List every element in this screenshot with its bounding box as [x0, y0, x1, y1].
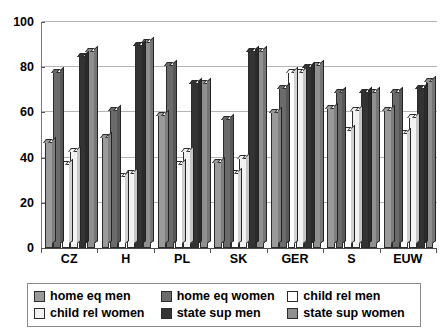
legend-swatch: [287, 291, 298, 302]
bar-side-face: [416, 112, 420, 244]
bar-side-face: [190, 146, 194, 244]
bar-side-face: [351, 125, 355, 244]
bar-side-face: [320, 60, 324, 244]
bar-side-face: [424, 82, 428, 244]
bar-side-face: [230, 114, 234, 244]
bar-top-face: [108, 107, 117, 111]
y-tick-label: 80: [4, 61, 34, 74]
bar: [271, 112, 279, 248]
bar-side-face: [77, 146, 81, 244]
x-tick-mark: [436, 248, 437, 253]
x-axis-labels: CZHPLSKGERSEUW: [41, 253, 436, 273]
bar: [45, 142, 53, 248]
x-tick-mark: [210, 248, 211, 253]
x-category-label: PL: [174, 253, 190, 266]
bar-top-face: [325, 105, 334, 109]
bar-side-face: [125, 171, 129, 244]
legend-label: child rel men: [303, 290, 380, 303]
x-tick-mark: [97, 248, 98, 253]
bar-side-face: [255, 46, 259, 244]
x-category-label: SK: [230, 253, 247, 266]
chart-legend: home eq menhome eq womenchild rel menchi…: [27, 283, 421, 327]
legend-swatch: [161, 291, 172, 302]
legend-item: child rel men: [287, 290, 414, 303]
bar-side-face: [342, 87, 346, 244]
bar-side-face: [221, 157, 225, 244]
bar-side-face: [263, 46, 267, 244]
bar-top-face: [156, 112, 165, 116]
bar-side-face: [303, 67, 307, 244]
bar-side-face: [207, 78, 211, 244]
plot-inner: [42, 22, 437, 248]
bar-side-face: [108, 132, 112, 244]
bar-side-face: [173, 60, 177, 244]
bar-top-face: [382, 107, 391, 111]
bar-side-face: [399, 87, 403, 244]
bar-side-face: [182, 159, 186, 244]
legend-swatch: [34, 308, 45, 319]
x-tick-mark: [380, 248, 381, 253]
bar-side-face: [294, 67, 298, 244]
legend-swatch: [287, 308, 298, 319]
x-category-label: S: [347, 253, 355, 266]
bar-top-face: [43, 139, 52, 143]
legend-item: child rel women: [34, 307, 161, 320]
bar-side-face: [134, 168, 138, 244]
bar-top-face: [390, 89, 399, 93]
x-category-label: H: [121, 253, 130, 266]
bar-side-face: [334, 103, 338, 244]
bar-top-face: [415, 85, 424, 89]
legend-label: home eq men: [50, 290, 131, 303]
bar-top-face: [164, 62, 173, 66]
bar: [158, 115, 166, 248]
legend-swatch: [161, 308, 172, 319]
legend-label: state sup men: [177, 307, 261, 320]
bar-side-face: [359, 105, 363, 244]
legend-grid: home eq menhome eq womenchild rel menchi…: [34, 288, 414, 322]
y-tick-mark: [41, 67, 45, 68]
bar-side-face: [52, 137, 56, 244]
bar: [102, 137, 110, 248]
bar-side-face: [391, 105, 395, 244]
bar: [327, 108, 335, 248]
bar-side-face: [85, 51, 89, 244]
x-tick-mark: [41, 248, 42, 253]
bar-side-face: [94, 46, 98, 244]
legend-item: home eq men: [34, 290, 161, 303]
bar-group: [214, 22, 264, 248]
bar-side-face: [368, 87, 372, 244]
plot-area: [41, 22, 437, 249]
bar-top-face: [277, 85, 286, 89]
bar-side-face: [278, 107, 282, 244]
bar-chart: 020406080100 CZHPLSKGERSEUW home eq menh…: [0, 0, 444, 334]
y-tick-label: 0: [4, 242, 34, 255]
bar-top-face: [269, 109, 278, 113]
bar-top-face: [350, 107, 359, 111]
bar-side-face: [60, 67, 64, 244]
bar-group: [327, 22, 377, 248]
bar-group: [102, 22, 152, 248]
bar-top-face: [68, 148, 77, 152]
bar-side-face: [198, 78, 202, 244]
bar-side-face: [142, 39, 146, 244]
bar: [384, 110, 392, 248]
bar-top-face: [359, 89, 368, 93]
bar-side-face: [69, 159, 73, 244]
x-category-label: EUW: [393, 253, 422, 266]
bar-top-face: [246, 48, 255, 52]
bar-side-face: [117, 105, 121, 244]
bar-side-face: [150, 37, 154, 244]
bar-side-face: [238, 168, 242, 244]
bar-top-face: [407, 114, 416, 118]
y-tick-label: 60: [4, 106, 34, 119]
y-tick-label: 20: [4, 197, 34, 210]
legend-label: state sup women: [303, 307, 404, 320]
x-category-label: CZ: [61, 253, 78, 266]
y-tick-label: 40: [4, 151, 34, 164]
legend-swatch: [34, 291, 45, 302]
x-tick-mark: [323, 248, 324, 253]
bar-top-face: [221, 116, 230, 120]
bar-top-face: [181, 148, 190, 152]
bar-group: [45, 22, 95, 248]
bar-side-face: [286, 82, 290, 244]
